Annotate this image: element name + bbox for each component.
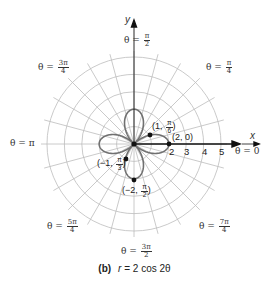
x-axis-label: x — [250, 131, 255, 141]
pole-point — [131, 141, 136, 146]
label-point-neg1-pi-3: (−1, π3) — [97, 157, 126, 171]
radial-tick-4: 4 — [202, 147, 207, 157]
point-neg2-pi-2 — [132, 178, 137, 183]
radial-tick-2: 2 — [169, 147, 174, 157]
theta-pi-over-2-label: θ = π2 — [124, 33, 150, 48]
theta-zero-label: θ = 0 — [235, 147, 259, 156]
radial-tick-3: 3 — [184, 147, 189, 157]
theta-7pi-over-4-label: θ = 7π4 — [199, 219, 230, 234]
label-point-neg2-pi-2: (−2, π2) — [122, 184, 151, 198]
y-axis-label: y — [125, 15, 130, 25]
y-axis-arrow-icon — [132, 20, 137, 27]
theta-5pi-over-4-label: θ = 5π4 — [47, 219, 78, 234]
theta-3pi-over-4-label: θ = 3π4 — [38, 60, 69, 75]
theta-pi-label: θ = π — [10, 139, 35, 148]
radial-tick-5: 5 — [219, 147, 224, 157]
theta-3pi-over-2-label: θ = 3π2 — [121, 244, 152, 259]
label-point-2-0: (2, 0) — [172, 133, 193, 142]
theta-pi-over-4-label: θ = π4 — [206, 60, 232, 75]
figure-caption: (b)r = 2 cos 2θ — [0, 263, 269, 274]
